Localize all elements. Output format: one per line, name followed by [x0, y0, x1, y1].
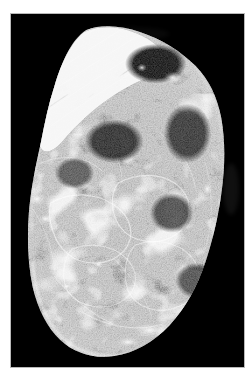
page-root	[0, 0, 252, 386]
micrograph-canvas	[11, 14, 244, 367]
micrograph-plate	[10, 13, 245, 368]
